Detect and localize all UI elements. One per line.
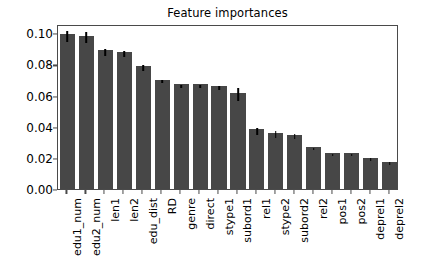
plot-area xyxy=(58,26,397,189)
bar xyxy=(136,66,151,189)
error-bar xyxy=(142,65,144,71)
bar xyxy=(230,93,245,189)
error-bar xyxy=(180,85,182,88)
x-axis-tick-mark xyxy=(274,190,275,194)
plot-axes xyxy=(57,25,398,190)
x-axis-tick-label: deprel1 xyxy=(374,198,387,240)
x-axis-tick-label: direct xyxy=(204,198,217,229)
x-axis-tick-mark xyxy=(388,190,389,194)
error-bar xyxy=(256,128,258,135)
x-axis-tick-mark xyxy=(217,190,218,194)
y-axis-tick-label: 0.08 xyxy=(26,58,53,72)
x-axis-tick-label: rel2 xyxy=(317,198,330,219)
error-bar xyxy=(370,158,372,160)
x-axis-tick-mark xyxy=(142,190,143,194)
x-axis-tick-label: len1 xyxy=(109,198,122,222)
x-axis-tick-label: subord2 xyxy=(298,198,311,243)
bar xyxy=(306,147,321,189)
x-axis-tick-label: rel1 xyxy=(260,198,273,219)
x-axis-tick-mark xyxy=(331,190,332,194)
x-axis-tick-mark xyxy=(369,190,370,194)
x-axis-tick-mark xyxy=(66,190,67,194)
x-axis-tick-label: genre xyxy=(185,198,198,230)
bar xyxy=(363,158,378,189)
error-bar xyxy=(275,131,277,138)
bar xyxy=(193,84,208,189)
x-axis-tick-label: pos2 xyxy=(355,198,368,224)
x-axis-tick-mark xyxy=(199,190,200,194)
error-bar xyxy=(218,86,220,90)
y-axis-tick-label: 0.02 xyxy=(26,152,53,166)
bar xyxy=(174,84,189,189)
error-bar xyxy=(161,80,163,84)
error-bar xyxy=(389,162,391,165)
x-axis-tick-label: RD xyxy=(166,198,179,214)
bar xyxy=(60,34,75,189)
x-axis-tick-mark xyxy=(161,190,162,194)
error-bar xyxy=(105,49,107,55)
page-title: Feature importances xyxy=(57,6,398,20)
y-axis-tick-label: 0.04 xyxy=(26,121,53,135)
error-bar xyxy=(351,154,353,156)
bar xyxy=(344,153,359,189)
bar xyxy=(287,135,302,189)
bar xyxy=(249,129,264,189)
bar xyxy=(268,133,283,189)
y-axis-tick-label: 0.00 xyxy=(26,183,53,197)
x-axis-tick-label: stype1 xyxy=(223,198,236,235)
x-axis-tick-mark xyxy=(312,190,313,194)
error-bar xyxy=(86,32,88,44)
x-axis-tick-mark xyxy=(293,190,294,194)
error-bar xyxy=(199,85,201,88)
feature-importances-figure: Feature importances 0.000.020.040.060.08… xyxy=(0,0,425,266)
x-axis-tick-label: len2 xyxy=(128,198,141,222)
error-bar xyxy=(294,134,296,139)
y-axis-tick-label: 0.10 xyxy=(26,27,53,41)
x-axis-tick-mark xyxy=(180,190,181,194)
x-axis-tick-label: edu_dist xyxy=(147,198,160,244)
bar xyxy=(98,50,113,189)
error-bar xyxy=(313,148,315,151)
x-axis-tick-label: edu2_num xyxy=(90,198,103,256)
x-axis-tick-label: subord1 xyxy=(241,198,254,243)
error-bar xyxy=(237,88,239,101)
x-axis-tick-label: deprel2 xyxy=(393,198,406,240)
y-axis-tick-label: 0.06 xyxy=(26,90,53,104)
bar xyxy=(325,153,340,189)
error-bar xyxy=(124,51,126,57)
bar xyxy=(117,52,132,189)
x-axis-tick-label: edu1_num xyxy=(71,198,84,256)
x-axis-tick-mark xyxy=(255,190,256,194)
x-axis-tick-mark xyxy=(350,190,351,194)
x-axis-tick-mark xyxy=(104,190,105,194)
error-bar xyxy=(67,31,69,42)
bar xyxy=(211,86,226,189)
x-axis-tick-mark xyxy=(123,190,124,194)
bar xyxy=(155,80,170,189)
x-axis-tick-label: pos1 xyxy=(336,198,349,224)
bar xyxy=(382,162,397,189)
error-bar xyxy=(332,154,334,156)
x-axis-tick-label: stype2 xyxy=(279,198,292,235)
bar xyxy=(79,36,94,189)
x-axis-tick-mark xyxy=(236,190,237,194)
x-axis-tick-mark xyxy=(85,190,86,194)
